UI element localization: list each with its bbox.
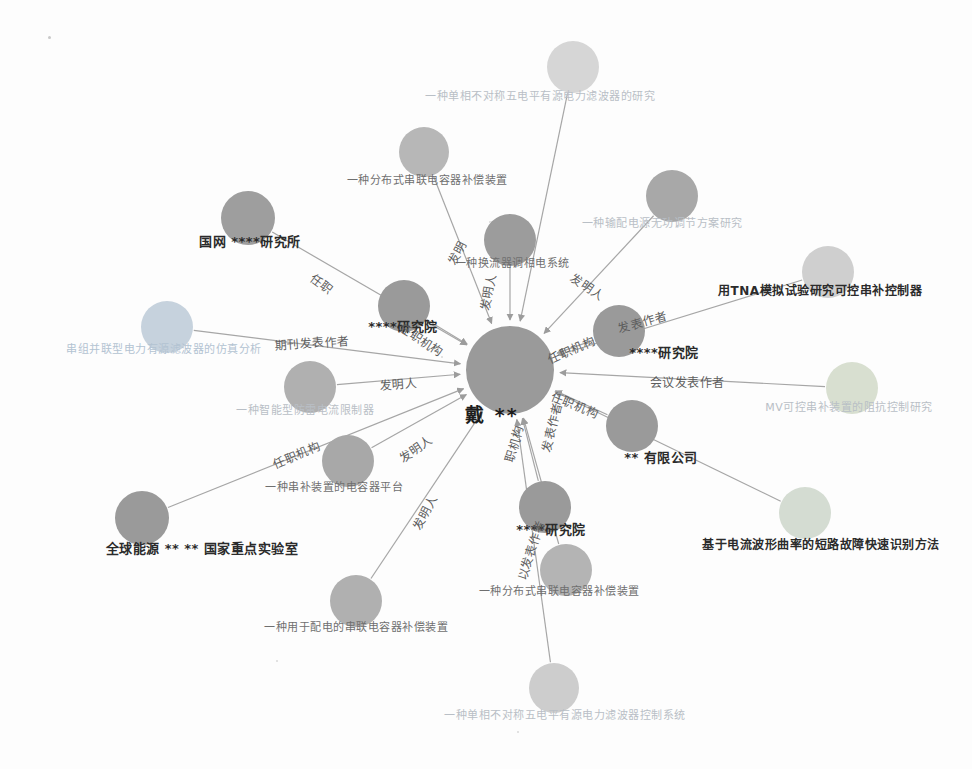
graph-node-label: 一种单相不对称五电平有源电力滤波器的研究 [425,91,655,103]
graph-node-label: 用TNA模拟试验研究可控串补控制器 [718,285,922,298]
graph-node-label: 全球能源 ** ** 国家重点实验室 [106,542,299,556]
graph-node[interactable] [330,575,382,627]
edge-label: 会议发表作者 [650,373,725,390]
graph-node-label: ****研究院 [629,346,699,360]
scan-speck [276,660,278,662]
scan-speck [441,356,443,358]
graph-node-label: 一种单相不对称五电平有源电力滤波器控制系统 [444,710,686,722]
scan-speck [48,36,51,39]
scan-speck [517,731,519,733]
graph-node-label: MV可控串补装置的阻抗控制研究 [765,402,933,414]
graph-node-label: 一种用于配电的串联电容器补偿装置 [264,622,448,634]
graph-node[interactable] [606,400,658,452]
graph-node-label: 一种分布式串联电容器补偿装置 [479,586,640,598]
graph-node[interactable] [399,127,449,177]
graph-node[interactable] [529,663,579,713]
graph-node-label: 国网 ****研究所 [199,235,301,249]
graph-node[interactable] [547,41,599,93]
graph-node[interactable] [779,487,831,539]
edge-label: 发明人 [379,373,418,393]
graph-node-label: 一种串补装置的电容器平台 [265,482,403,494]
graph-node-label: 一种分布式串联电容器补偿装置 [347,175,508,187]
graph-node-label: 一种换流器调相电系统 [455,258,570,270]
graph-node-label: 基于电流波形曲率的短路故障快速识别方法 [702,539,940,552]
graph-node[interactable] [115,491,169,545]
graph-node[interactable] [646,170,698,222]
graph-node-label: 串组并联型电力有源滤波器的仿真分析 [66,344,262,356]
graph-node-label: 一种智能型防雷电流限制器 [236,405,374,417]
graph-node-label: 一种输配电源无功调节方案研究 [582,218,743,230]
graph-edge[interactable] [520,93,567,321]
center-node-label: 戴 ** [465,400,519,427]
scan-speck [489,221,491,223]
graph-node-label: ** 有限公司 [624,451,698,465]
knowledge-graph-canvas[interactable]: 一种单相不对称五电平有源电力滤波器的研究一种分布式串联电容器补偿装置一种输配电源… [0,0,972,769]
graph-node[interactable] [322,435,374,487]
